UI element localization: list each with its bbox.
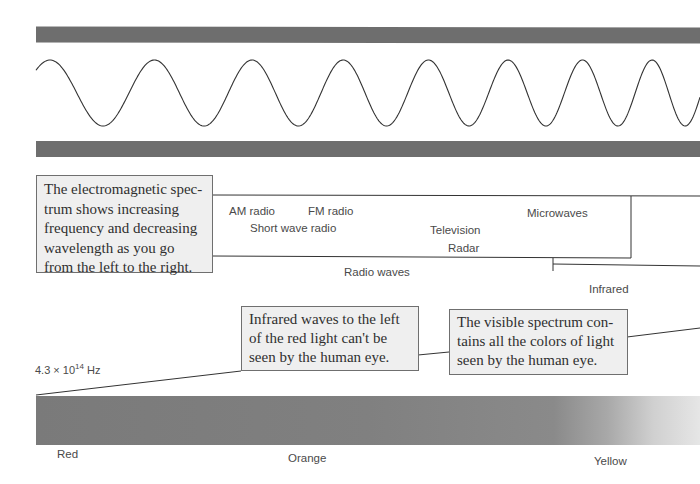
infrared-bracket-line <box>553 264 700 266</box>
label-radio-waves: Radio waves <box>344 266 410 278</box>
callout-line: The visible spectrum con- <box>457 313 620 332</box>
callout-visible-spectrum: The visible spectrum con- tains all the … <box>449 309 628 375</box>
label-red: Red <box>57 448 78 460</box>
frequency-label: 4.3 × 1014 Hz <box>35 362 100 376</box>
callout-infrared: Infrared waves to the left of the red li… <box>241 306 419 371</box>
visible-spectrum-bar <box>36 396 700 445</box>
label-am-radio: AM radio <box>229 205 275 217</box>
label-radar: Radar <box>448 242 479 254</box>
callout-line: Infrared waves to the left <box>249 310 411 329</box>
callout-line: of the red light can't be <box>249 329 411 348</box>
label-short-wave-radio: Short wave radio <box>250 222 336 234</box>
label-television: Television <box>430 224 481 236</box>
callout-line: trum shows increasing <box>44 200 205 220</box>
frequency-unit: Hz <box>84 364 101 376</box>
label-microwaves: Microwaves <box>527 207 588 219</box>
radio-bracket-top <box>212 195 700 196</box>
callout-line: frequency and decreasing <box>44 219 205 239</box>
callout-line: The electromagnetic spec- <box>44 180 205 200</box>
radio-bracket-bottom <box>212 256 631 258</box>
expansion-line-mid <box>418 352 449 355</box>
callout-line: seen by the human eye. <box>249 348 411 367</box>
label-fm-radio: FM radio <box>308 205 353 217</box>
callout-line: wavelength as you go <box>44 239 205 259</box>
expansion-line-right <box>627 328 700 337</box>
callout-line: tains all the colors of light <box>457 332 620 351</box>
callout-line: from the left to the right. <box>44 258 205 278</box>
wave-line <box>36 60 700 126</box>
frequency-mantissa: 4.3 × 10 <box>35 364 75 376</box>
frequency-exponent: 14 <box>75 362 84 371</box>
middle-band <box>36 141 700 157</box>
label-orange: Orange <box>288 452 326 464</box>
label-infrared: Infrared <box>589 283 629 295</box>
callout-spectrum-intro: The electromagnetic spec- trum shows inc… <box>36 175 213 273</box>
label-yellow: Yellow <box>594 455 627 467</box>
callout-line: seen by the human eye. <box>457 351 620 370</box>
